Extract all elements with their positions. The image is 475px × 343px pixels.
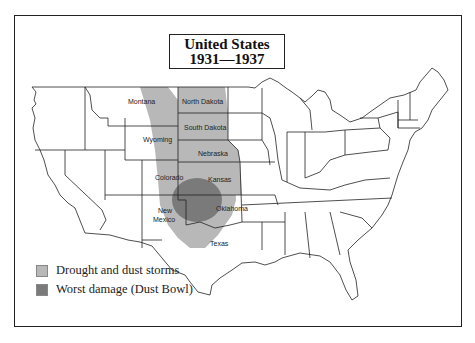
label-south-dakota: South Dakota xyxy=(184,124,227,131)
label-wyoming: Wyoming xyxy=(143,136,172,144)
legend-label-drought: Drought and dust storms xyxy=(56,263,179,278)
title-line-1: United States xyxy=(170,37,284,52)
legend-label-dust-bowl: Worst damage (Dust Bowl) xyxy=(56,282,193,297)
label-new-mexico-1: New xyxy=(158,207,173,214)
label-colorado: Colorado xyxy=(155,174,184,181)
label-nebraska: Nebraska xyxy=(198,150,228,157)
label-north-dakota: North Dakota xyxy=(182,98,223,105)
label-new-mexico-2: Mexico xyxy=(153,216,175,223)
drought-swatch-icon xyxy=(36,265,48,277)
title-box: United States 1931—1937 xyxy=(169,34,285,69)
legend-item-dust-bowl: Worst damage (Dust Bowl) xyxy=(36,280,193,299)
label-kansas: Kansas xyxy=(208,176,232,183)
title-line-2: 1931—1937 xyxy=(170,52,284,67)
label-montana: Montana xyxy=(128,98,155,105)
label-oklahoma: Oklahoma xyxy=(216,205,248,212)
legend: Drought and dust storms Worst damage (Du… xyxy=(36,261,193,299)
label-texas: Texas xyxy=(210,240,229,247)
legend-item-drought: Drought and dust storms xyxy=(36,261,193,280)
dust-bowl-swatch-icon xyxy=(36,284,48,296)
